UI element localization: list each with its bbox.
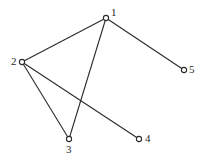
node-5: 5 <box>181 63 195 75</box>
edge-1-2 <box>22 18 106 62</box>
node-circle-icon <box>136 136 141 141</box>
node-label: 4 <box>145 132 151 144</box>
edge-1-5 <box>106 18 184 70</box>
node-label: 5 <box>189 63 195 75</box>
node-circle-icon <box>103 15 108 20</box>
node-label: 1 <box>111 6 117 18</box>
node-circle-icon <box>181 67 186 72</box>
node-4: 4 <box>136 132 151 144</box>
edge-2-3 <box>22 62 69 139</box>
node-label: 2 <box>11 55 17 67</box>
edge-2-4 <box>22 62 139 139</box>
node-circle-icon <box>19 59 24 64</box>
node-label: 3 <box>66 143 72 155</box>
edges-group <box>22 18 184 139</box>
edge-1-3 <box>69 18 106 139</box>
node-3: 3 <box>66 136 72 155</box>
node-1: 1 <box>103 6 116 21</box>
node-circle-icon <box>66 136 71 141</box>
graph-diagram: 12345 <box>0 0 204 162</box>
node-2: 2 <box>11 55 25 67</box>
